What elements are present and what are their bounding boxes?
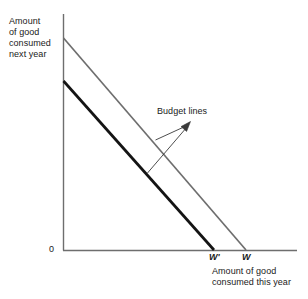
outer-budget-line [64, 38, 247, 250]
budget-lines-annotation: Budget lines [157, 106, 207, 117]
budget-lines-figure: Amount of good consumed next year 0 Budg… [0, 0, 308, 299]
x-tick-w: W [242, 252, 251, 262]
leader-arrowhead [181, 122, 191, 132]
x-tick-w-prime: W' [209, 252, 220, 262]
origin-label: 0 [49, 244, 54, 255]
x-axis-label: Amount of good consumed this year [212, 266, 308, 288]
budget-lines-leader-group [148, 122, 191, 174]
leader-to-inner-line [148, 127, 188, 173]
y-axis-label: Amount of good consumed next year [9, 16, 65, 60]
